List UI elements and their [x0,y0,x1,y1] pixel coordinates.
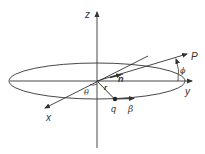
q-label: q [111,104,116,114]
coordinate-diagram: z y x P ϕ n̂ r θ q β [0,0,205,154]
z-axis-label: z [84,9,90,20]
x-axis-label: x [45,112,52,123]
p-label: P [191,51,198,62]
x-axis [45,56,148,108]
theta-angle-arc [90,84,97,85]
diagram-canvas: z y x P ϕ n̂ r θ q β [0,0,205,154]
beta-label: β [127,104,133,114]
phi-label: ϕ [180,66,186,75]
y-axis-label: y [184,86,191,97]
beta-velocity-arrow [116,98,134,99]
r-label: r [104,83,108,92]
theta-label: θ [84,88,89,97]
n-hat-label: n̂ [118,73,124,84]
phi-angle-arc [176,59,179,81]
